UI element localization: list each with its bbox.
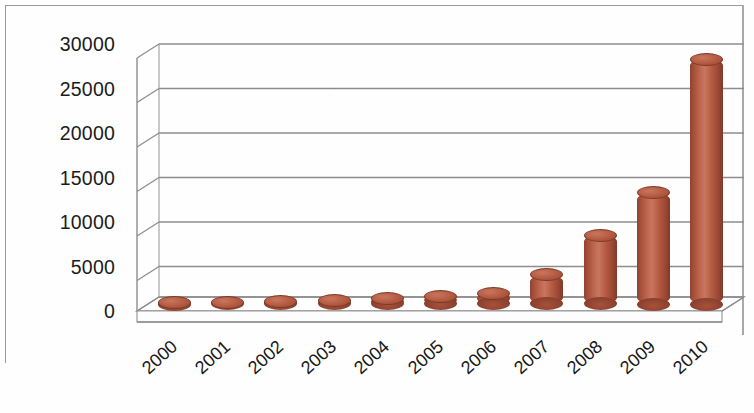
bar-cylinder-base bbox=[584, 297, 617, 310]
bar-cylinder-base bbox=[690, 298, 723, 311]
bar-cylinder-cap bbox=[690, 53, 723, 66]
chart-bar bbox=[530, 268, 563, 310]
bar-cylinder-cap bbox=[584, 229, 617, 242]
bar-cylinder-body bbox=[690, 59, 723, 304]
y-axis-tick-30000: 30000 bbox=[0, 33, 115, 56]
chart-bar bbox=[158, 296, 191, 311]
y-axis-tick-25000: 25000 bbox=[0, 78, 115, 101]
bar-cylinder-body bbox=[584, 235, 617, 304]
y-axis-tick-20000: 20000 bbox=[0, 122, 115, 145]
chart-bar bbox=[424, 290, 457, 311]
bar-cylinder-cap bbox=[424, 290, 457, 303]
chart-bar bbox=[318, 294, 351, 310]
chart-bar bbox=[584, 229, 617, 311]
bar-cylinder-base bbox=[637, 298, 670, 311]
chart-bar bbox=[690, 53, 723, 311]
bar-cylinder-cap bbox=[371, 292, 404, 305]
y-axis-tick-15000: 15000 bbox=[0, 167, 115, 190]
y-axis-tick-5000: 5000 bbox=[0, 256, 115, 279]
bar-cylinder-cap bbox=[211, 296, 244, 309]
chart-bar bbox=[477, 287, 510, 311]
chart-bar bbox=[211, 296, 244, 311]
chart-bar bbox=[264, 295, 297, 310]
scanned-page-background: 30000 25000 20000 15000 10000 5000 0 200… bbox=[0, 0, 754, 413]
bar-cylinder-body bbox=[637, 193, 670, 304]
bar-cylinder-cap bbox=[158, 296, 191, 309]
chart-plot-area: 30000 25000 20000 15000 10000 5000 0 200… bbox=[0, 0, 754, 413]
y-axis-tick-0: 0 bbox=[0, 300, 115, 323]
chart-bar bbox=[637, 186, 670, 310]
chart-bar bbox=[371, 292, 404, 310]
bar-cylinder-cap bbox=[477, 287, 510, 300]
y-axis-tick-10000: 10000 bbox=[0, 211, 115, 234]
bar-cylinder-base bbox=[530, 297, 563, 310]
